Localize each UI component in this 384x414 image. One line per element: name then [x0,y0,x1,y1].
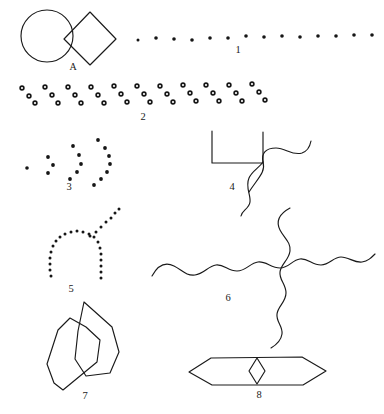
figure-label-6: 6 [225,292,230,303]
figure-label-5: 5 [68,283,73,294]
polygon-left [47,318,100,390]
figure-label-1: 1 [235,44,240,55]
inner-diamond-shape [249,358,265,384]
dotted-arch [49,230,103,280]
figure-label-2: 2 [140,111,145,122]
horizontal-wavy-line [152,254,375,276]
nested-dot-arcs [25,138,112,187]
figure-8-group: 8 [189,357,326,400]
open-dot-field [20,82,267,105]
wavy-line-lower [241,162,263,216]
figure-canvas: A 1 [0,0,384,414]
figure-label-A: A [69,61,77,72]
circle-shape [21,10,73,62]
figure-2-group: 2 [20,82,267,122]
figure-6-group: 6 [152,208,375,348]
figure-plate: A 1 [0,0,384,414]
figure-3-group: 3 [25,138,112,192]
figure-1-group: 1 [137,33,374,55]
figure-A-group: A [21,10,116,72]
dot-row [137,33,374,42]
vertical-wavy-line [271,208,290,348]
dotted-branch [89,208,121,238]
figure-label-8: 8 [256,389,261,400]
polygon-right [75,302,119,376]
diamond-shape [64,12,116,65]
figure-4-group: 4 [212,131,311,216]
figure-label-7: 7 [82,390,87,401]
figure-label-4: 4 [229,181,235,192]
figure-label-3: 3 [66,181,71,192]
figure-5-group: 5 [49,208,121,295]
open-square-shape [212,131,263,163]
hexagon-shape [189,357,326,385]
figure-7-group: 7 [47,302,119,401]
